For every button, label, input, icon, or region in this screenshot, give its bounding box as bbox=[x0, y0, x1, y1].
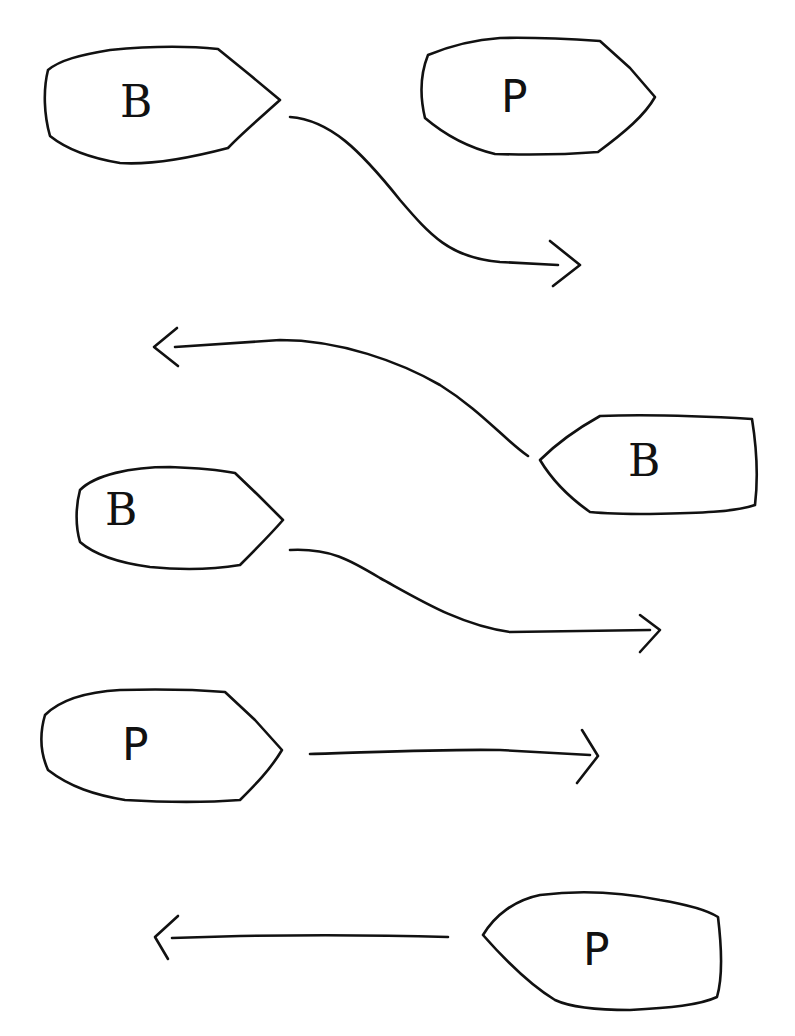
boat-label: B bbox=[628, 435, 660, 486]
arrowhead-right-icon bbox=[577, 730, 598, 783]
arrow-line bbox=[310, 750, 590, 755]
arrow-line bbox=[172, 935, 448, 938]
arrow-straight-right bbox=[310, 730, 598, 783]
boat-label: P bbox=[501, 71, 528, 122]
boat-label: B bbox=[120, 76, 152, 127]
boat-p-right-2: P bbox=[42, 690, 282, 802]
boat-outline bbox=[422, 38, 655, 155]
arrow-curved-right-1 bbox=[290, 117, 580, 286]
boat-b-right-2: B bbox=[77, 467, 283, 569]
boat-p-left-1: P bbox=[483, 892, 721, 1010]
boat-b-left-1: B bbox=[540, 415, 757, 514]
arrow-line bbox=[175, 340, 528, 456]
arrow-straight-left bbox=[155, 916, 448, 959]
diagram-canvas: B P B B P bbox=[0, 0, 795, 1036]
arrowhead-right-icon bbox=[640, 615, 660, 652]
boat-label: P bbox=[583, 924, 610, 975]
arrow-line bbox=[290, 117, 558, 265]
boat-outline bbox=[45, 47, 280, 163]
arrow-curved-left-1 bbox=[154, 328, 528, 456]
arrowhead-right-icon bbox=[550, 241, 580, 286]
boat-label: P bbox=[122, 719, 149, 770]
arrow-line bbox=[290, 550, 650, 632]
boat-p-right-1: P bbox=[422, 38, 655, 155]
boat-label: B bbox=[105, 484, 137, 535]
boat-outline bbox=[42, 690, 282, 802]
boat-b-right-1: B bbox=[45, 47, 280, 163]
arrow-curved-right-2 bbox=[290, 550, 660, 652]
